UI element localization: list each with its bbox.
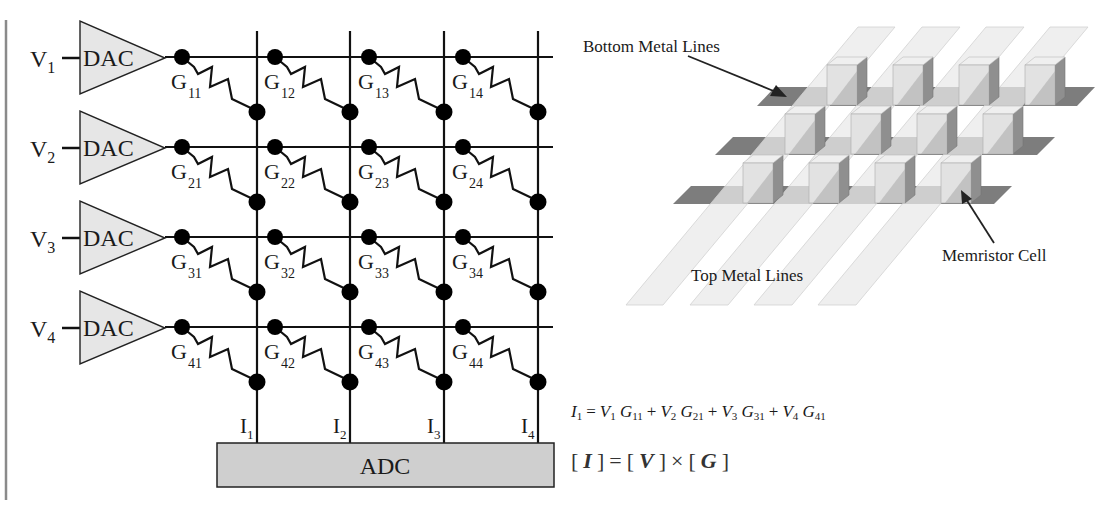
output-current-label: I3 xyxy=(427,414,441,442)
memristor-resistor-icon xyxy=(463,57,536,110)
eq1-plus: + xyxy=(704,402,722,421)
node-dot-icon xyxy=(436,194,453,211)
node-dot-icon xyxy=(174,229,190,245)
output-current-label: I4 xyxy=(521,414,535,442)
memristor-cell-label: Memristor Cell xyxy=(942,246,1047,265)
memristor-resistor-icon xyxy=(182,237,255,290)
node-dot-icon xyxy=(436,284,453,301)
eq1-plus: + xyxy=(765,402,783,421)
node-dot-icon xyxy=(267,49,283,65)
eq1-term2-v-sub: 2 xyxy=(671,410,677,422)
eq1-equals: = xyxy=(582,402,600,421)
memristor-resistor-icon xyxy=(182,147,255,200)
eq1-term1-g-sub: 11 xyxy=(632,410,643,422)
node-dot-icon xyxy=(342,284,359,301)
node-dot-icon xyxy=(267,229,283,245)
eq1-term3-g: G xyxy=(742,402,754,421)
memristor-cube-side xyxy=(947,106,957,154)
eq1-term1-v-sub: 1 xyxy=(610,410,616,422)
eq1-plus: + xyxy=(643,402,661,421)
eq2-bracket: [ xyxy=(688,448,695,473)
eq2-times: × xyxy=(666,448,688,473)
memristor-resistor-icon xyxy=(275,147,348,200)
node-dot-icon xyxy=(455,229,471,245)
memristor-cube-side xyxy=(857,57,867,105)
node-dot-icon xyxy=(174,139,190,155)
bottom-metal-lines-label: Bottom Metal Lines xyxy=(583,37,720,56)
memristor-cube-side xyxy=(905,155,915,203)
eq2-bracket: ] xyxy=(659,448,666,473)
diagram-canvas: V1DACG11G12G13G14V2DACG21G22G23G24V3DACG… xyxy=(0,0,1108,506)
memristor-crossbar-figure: V1DACG11G12G13G14V2DACG21G22G23G24V3DACG… xyxy=(0,0,1108,506)
crossbar-circuit: V1DACG11G12G13G14V2DACG21G22G23G24V3DACG… xyxy=(30,21,553,443)
node-dot-icon xyxy=(436,104,453,121)
node-dot-icon xyxy=(455,49,471,65)
memristor-cube-side xyxy=(881,106,891,154)
node-dot-icon xyxy=(361,229,377,245)
memristor-cube-side xyxy=(989,57,999,105)
bottom-lines-arrow-icon xyxy=(688,56,787,97)
memristor-cube-side xyxy=(773,155,783,203)
memristor-resistor-icon xyxy=(463,147,536,200)
memristor-resistor-icon xyxy=(275,57,348,110)
eq1-term4-v-sub: 4 xyxy=(793,410,799,422)
memristor-resistor-icon xyxy=(182,327,255,380)
node-dot-icon xyxy=(267,319,283,335)
node-dot-icon xyxy=(249,194,266,211)
node-dot-icon xyxy=(530,194,547,211)
node-dot-icon xyxy=(342,104,359,121)
eq2-conductance-matrix: G xyxy=(696,448,722,473)
memristor-cube-side xyxy=(1013,106,1023,154)
eq1-term3-v-sub: 3 xyxy=(732,410,738,422)
node-dot-icon xyxy=(249,374,266,391)
eq2-voltage-vector: V xyxy=(634,448,659,473)
dac-label: DAC xyxy=(83,135,134,161)
eq1-term2-g: G xyxy=(681,402,693,421)
node-dot-icon xyxy=(361,49,377,65)
memristor-cube-side xyxy=(1055,57,1065,105)
input-voltage-label: V2 xyxy=(30,136,55,166)
input-voltage-label: V3 xyxy=(30,226,55,256)
node-dot-icon xyxy=(530,284,547,301)
memristor-resistor-icon xyxy=(275,237,348,290)
node-dot-icon xyxy=(342,194,359,211)
eq1-term2-g-sub: 21 xyxy=(693,410,704,422)
eq2-bracket: [ xyxy=(627,448,634,473)
memristor-resistor-icon xyxy=(369,147,442,200)
memristor-cube-side xyxy=(839,155,849,203)
eq1-term4-g-sub: 41 xyxy=(815,410,826,422)
eq1-term1-g: G xyxy=(620,402,632,421)
node-dot-icon xyxy=(436,374,453,391)
node-dot-icon xyxy=(530,104,547,121)
node-dot-icon xyxy=(267,139,283,155)
memristor-cube-side xyxy=(923,57,933,105)
output-current-label: I1 xyxy=(240,414,254,442)
node-dot-icon xyxy=(249,104,266,121)
input-voltage-label: V1 xyxy=(30,46,55,76)
node-dot-icon xyxy=(174,319,190,335)
current-equation: I1=V1 G11+V2 G21+V3 G31+V4 G41 xyxy=(571,402,826,422)
output-current-label: I2 xyxy=(333,414,347,442)
eq1-term4-v: V xyxy=(782,402,792,421)
node-dot-icon xyxy=(249,284,266,301)
memristor-resistor-icon xyxy=(369,237,442,290)
eq2-equals: = xyxy=(604,448,626,473)
memristor-resistor-icon xyxy=(369,57,442,110)
input-voltage-label: V4 xyxy=(30,316,55,346)
node-dot-icon xyxy=(361,319,377,335)
node-dot-icon xyxy=(530,374,547,391)
node-dot-icon xyxy=(455,139,471,155)
eq1-term2-v: V xyxy=(660,402,670,421)
node-dot-icon xyxy=(455,319,471,335)
eq1-term3-v: V xyxy=(721,402,731,421)
eq1-term3-g-sub: 31 xyxy=(754,410,765,422)
eq1-term1-v: V xyxy=(600,402,610,421)
node-dot-icon xyxy=(342,374,359,391)
eq2-bracket: ] xyxy=(722,448,729,473)
memristor-resistor-icon xyxy=(463,327,536,380)
memristor-resistor-icon xyxy=(182,57,255,110)
node-dot-icon xyxy=(174,49,190,65)
node-dot-icon xyxy=(361,139,377,155)
memristor-resistor-icon xyxy=(463,237,536,290)
memristor-cube-side xyxy=(971,155,981,203)
